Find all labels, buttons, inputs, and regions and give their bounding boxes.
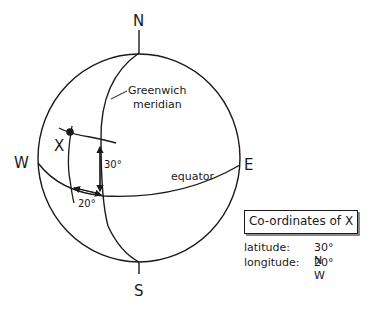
longitude-angle-label: 20°	[78, 198, 96, 209]
longitude-value: 20° W	[314, 256, 334, 282]
latitude-angle-label: 30°	[104, 159, 122, 170]
point-x-label: X	[54, 137, 64, 155]
longitude-key: longitude:	[244, 256, 300, 269]
latitude-key: latitude:	[244, 241, 290, 254]
equator-label: equator	[171, 170, 214, 183]
legend-title-box: Co-ordinates of X	[244, 210, 358, 234]
south-label: S	[134, 282, 144, 300]
east-label: E	[244, 156, 253, 174]
greenwich-leader	[111, 91, 127, 99]
greenwich-label-line1: Greenwich	[128, 84, 186, 97]
north-label: N	[133, 12, 144, 30]
legend-title: Co-ordinates of X	[245, 214, 357, 228]
greenwich-label-line2: meridian	[133, 98, 182, 111]
west-label: W	[14, 154, 29, 172]
meridian-through-x	[68, 126, 74, 203]
point-x-marker	[66, 128, 74, 136]
